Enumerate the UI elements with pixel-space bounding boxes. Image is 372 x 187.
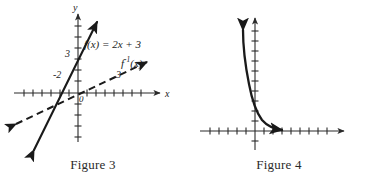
figure-3-caption: Figure 3 [0,157,186,173]
figure-3-origin-label: 0 [79,94,84,104]
figure-4-y-axis [252,18,259,150]
figure-4-caption: Figure 4 [186,157,372,173]
figure-4-panel: y x 9 3 -2 2 0 Figure 4 [186,0,372,187]
figure-3-x-axis-name: x [165,88,169,99]
figure-3-y-axis [75,14,82,142]
figure-3-inverse-label-arg: (x) [130,57,142,69]
figure-3-panel: f(x) = 2x + 3 f-1(x) y x 3 -2 3 0 Figure… [0,0,186,187]
figure-3-function-label: f(x) = 2x + 3 [84,38,141,50]
figure-3-y-tick-label-3: 3 [65,48,70,59]
figure-3-x-tick-label-neg2: -2 [53,69,61,80]
figure-3-x-axis [14,90,160,97]
figure-4-x-axis [200,128,344,135]
figure-3-y-axis-name: y [73,2,77,13]
figure-4-exponential-curve [243,30,282,130]
figure-3-inverse-label: f-1(x) [121,55,143,69]
figure-3-x-tick-label-3: 3 [116,69,121,80]
